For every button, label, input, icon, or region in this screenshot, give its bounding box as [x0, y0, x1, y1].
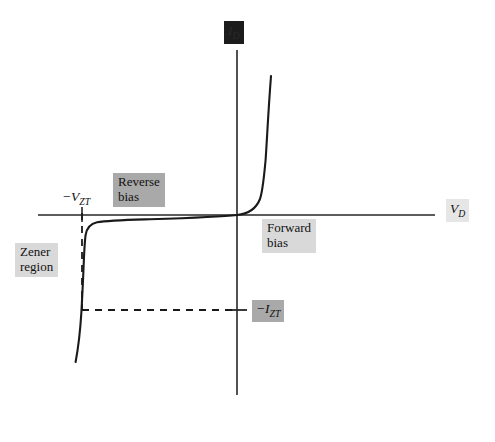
x-axis-label-vd-text: V: [450, 201, 458, 216]
zener-iv-figure: ID VD −VZT −IZT Reversebias Forwardbias …: [0, 0, 495, 442]
y-axis-label-id: ID: [224, 21, 244, 44]
tick-label-izt: −IZT: [252, 300, 284, 322]
tick-label-vzt-text: −V: [62, 189, 79, 204]
annotation-reverse-bias-line1: Reverse: [118, 174, 160, 189]
tick-label-izt-text: −I: [256, 301, 270, 316]
tick-label-izt-sub: ZT: [270, 308, 281, 319]
tick-label-vzt-sub: ZT: [79, 196, 90, 207]
x-axis-label-vd-sub: D: [458, 208, 465, 219]
y-axis-label-id-sub: D: [233, 30, 240, 41]
annotation-forward-bias-line2: bias: [267, 235, 288, 250]
annotation-reverse-bias: Reversebias: [113, 173, 165, 207]
x-axis-label-vd: VD: [446, 199, 469, 222]
tick-label-vzt: −VZT: [58, 188, 94, 210]
plot-canvas: [0, 0, 495, 442]
zener-breakdown-curve: [76, 215, 237, 362]
annotation-zener-region-line1: Zener: [20, 244, 50, 259]
annotation-zener-region-line2: region: [20, 259, 53, 274]
annotation-reverse-bias-line2: bias: [118, 189, 139, 204]
annotation-forward-bias: Forwardbias: [262, 219, 316, 253]
annotation-zener-region: Zenerregion: [15, 243, 58, 277]
forward-bias-curve: [237, 76, 271, 215]
annotation-forward-bias-line1: Forward: [267, 220, 311, 235]
